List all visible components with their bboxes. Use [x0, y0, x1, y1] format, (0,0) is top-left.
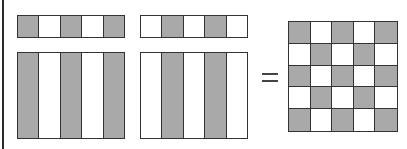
strip-a-cell-gray: [18, 16, 39, 37]
grid-cell-gray: [289, 109, 311, 131]
strip-b-cell-gray: [205, 16, 226, 37]
pattern-b-block: [140, 52, 248, 139]
strip-b-cell-white: [141, 16, 162, 37]
grid-cell-gray: [289, 66, 311, 88]
block-a-cell-gray: [18, 53, 39, 138]
grid-cell-white: [311, 22, 333, 44]
block-b-cell-white: [184, 53, 205, 138]
block-a-cell-gray: [104, 53, 124, 138]
grid-cell-white: [289, 87, 311, 109]
strip-b-cell-gray: [162, 16, 183, 37]
strip-a-cell-gray: [104, 16, 124, 37]
equals-sign: =: [262, 73, 278, 82]
grid-cell-gray: [375, 22, 397, 44]
grid-cell-white: [332, 44, 354, 66]
grid-cell-gray: [332, 109, 354, 131]
checkerboard-result-grid: [288, 21, 398, 132]
strip-a-cell-gray: [61, 16, 82, 37]
pattern-a-strip: [17, 15, 125, 38]
strip-a-cell-white: [39, 16, 60, 37]
grid-cell-white: [354, 22, 376, 44]
grid-cell-gray: [311, 44, 333, 66]
grid-cell-white: [311, 66, 333, 88]
grid-cell-white: [289, 44, 311, 66]
grid-cell-gray: [332, 22, 354, 44]
grid-cell-gray: [311, 87, 333, 109]
pattern-b-strip: [140, 15, 248, 38]
grid-cell-white: [354, 66, 376, 88]
grid-cell-gray: [289, 22, 311, 44]
equals-bar-top: [262, 73, 278, 75]
grid-cell-gray: [375, 66, 397, 88]
equals-bar-bottom: [262, 80, 278, 82]
block-b-cell-white: [141, 53, 162, 138]
block-b-cell-white: [227, 53, 247, 138]
grid-cell-gray: [332, 66, 354, 88]
grid-cell-white: [375, 87, 397, 109]
block-a-cell-white: [39, 53, 60, 138]
strip-b-cell-white: [227, 16, 247, 37]
grid-cell-white: [332, 87, 354, 109]
strip-a-cell-white: [82, 16, 103, 37]
block-a-cell-gray: [61, 53, 82, 138]
grid-cell-gray: [354, 87, 376, 109]
pattern-a-block: [17, 52, 125, 139]
grid-cell-white: [311, 109, 333, 131]
grid-cell-gray: [354, 44, 376, 66]
grid-cell-white: [375, 44, 397, 66]
strip-b-cell-white: [184, 16, 205, 37]
grid-cell-gray: [375, 109, 397, 131]
block-b-cell-gray: [205, 53, 226, 138]
left-border-rule: [2, 0, 4, 149]
block-b-cell-gray: [162, 53, 183, 138]
grid-cell-white: [354, 109, 376, 131]
block-a-cell-white: [82, 53, 103, 138]
